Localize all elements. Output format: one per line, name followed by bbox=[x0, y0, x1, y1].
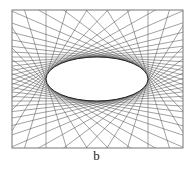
figure-caption: b bbox=[0, 148, 193, 164]
central-ellipse bbox=[46, 57, 148, 101]
ellipse-envelope-diagram bbox=[0, 0, 193, 150]
